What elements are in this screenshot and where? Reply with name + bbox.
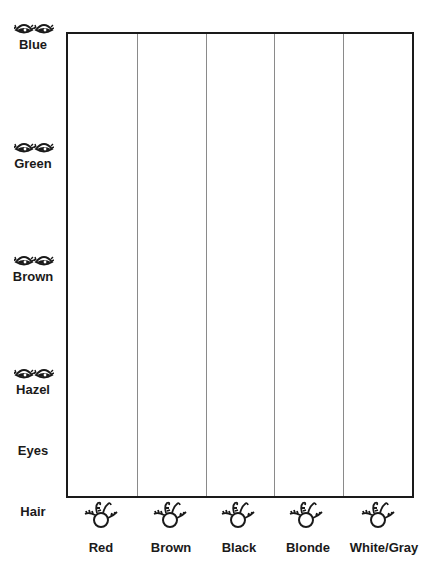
- hair-color-label-red: Red: [61, 540, 141, 555]
- hair-axis-label: Hair: [0, 504, 66, 519]
- column-divider: [137, 34, 138, 496]
- column-divider: [206, 34, 207, 496]
- hair-color-label-white-gray: White/Gray: [339, 540, 429, 555]
- eye-color-label-green: Green: [0, 156, 66, 171]
- hair-color-label-blonde: Blonde: [268, 540, 348, 555]
- hair-face-icon: [152, 500, 188, 530]
- hair-face-icon: [360, 500, 396, 530]
- hair-face-icon: [83, 500, 119, 530]
- eyes-icon: [14, 253, 54, 267]
- eye-color-label-hazel: Hazel: [0, 382, 66, 397]
- column-divider: [343, 34, 344, 496]
- hair-color-label-black: Black: [199, 540, 279, 555]
- eyes-icon: [14, 366, 54, 380]
- eye-color-label-brown: Brown: [0, 269, 66, 284]
- tally-grid: [66, 32, 414, 498]
- eyes-icon: [14, 21, 54, 35]
- hair-face-icon: [220, 500, 256, 530]
- eyes-axis-label: Eyes: [0, 443, 66, 458]
- hair-face-icon: [288, 500, 324, 530]
- column-divider: [274, 34, 275, 496]
- eye-color-label-blue: Blue: [0, 37, 66, 52]
- eyes-icon: [14, 140, 54, 154]
